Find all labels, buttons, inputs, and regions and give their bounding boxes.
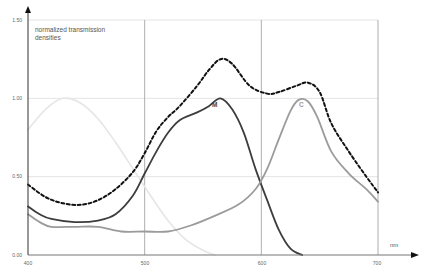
y-tick-0: 0.00 <box>12 252 22 258</box>
x-axis-unit: nm <box>390 242 398 248</box>
curve-c <box>28 99 378 232</box>
x-tick-500: 500 <box>141 260 150 266</box>
y-tick-050: 0.50 <box>12 173 22 179</box>
curve-sum-c-m-y- <box>28 59 378 205</box>
transmission-density-chart: normalized transmission densities nm 0.0… <box>0 0 423 276</box>
y-axis-title-2: densities <box>35 34 61 41</box>
y-axis-arrow-icon <box>25 6 31 13</box>
label-C: C <box>299 101 304 108</box>
x-tick-600: 600 <box>258 260 267 266</box>
label-M: M <box>212 101 217 108</box>
curves <box>28 59 378 255</box>
x-tick-700: 700 <box>373 260 382 266</box>
y-tick-100: 1.00 <box>12 95 22 101</box>
x-tick-400: 400 <box>24 260 33 266</box>
y-tick-150: 1.50 <box>12 17 22 23</box>
y-axis-title: normalized transmission <box>35 26 105 33</box>
x-axis-arrow-icon <box>411 252 419 258</box>
